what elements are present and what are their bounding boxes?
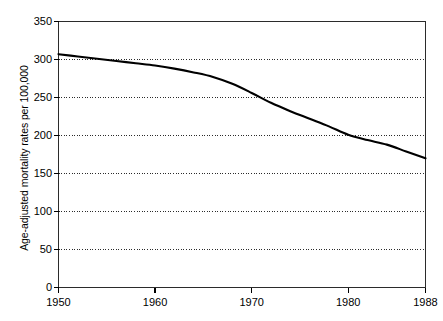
plot-area bbox=[0, 0, 443, 321]
x-tick-label: 1950 bbox=[37, 297, 81, 308]
x-tick-label: 1970 bbox=[230, 297, 274, 308]
x-tick-label: 1988 bbox=[404, 297, 443, 308]
data-series-line bbox=[59, 54, 426, 158]
x-tick-label: 1980 bbox=[326, 297, 370, 308]
chart-container: Age-adjusted mortality rates per 100,000… bbox=[0, 0, 443, 321]
x-tick-label: 1960 bbox=[133, 297, 177, 308]
